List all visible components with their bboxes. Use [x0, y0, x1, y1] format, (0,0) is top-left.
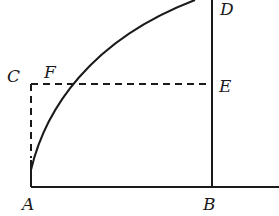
label-c: C — [7, 66, 20, 86]
label-b: B — [202, 194, 216, 214]
label-f: F — [43, 62, 57, 82]
label-d: D — [219, 0, 234, 19]
label-a: A — [20, 194, 34, 214]
label-e: E — [218, 76, 232, 96]
geometry-diagram: A B C D E F — [0, 0, 279, 216]
